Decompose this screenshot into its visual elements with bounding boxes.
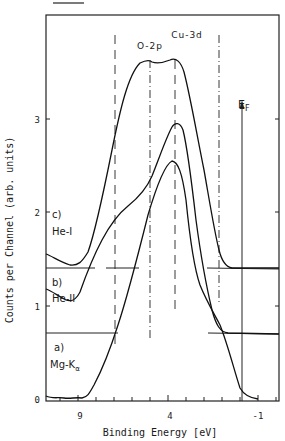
x-tick-9: 9 (77, 411, 82, 421)
o2p-label: O-2p (137, 41, 163, 51)
curve-a-mg-ka (46, 161, 258, 399)
y-tick-3: 3 (35, 115, 40, 125)
y-tick-0: 0 (35, 395, 40, 405)
x-tick-4: 4 (167, 411, 172, 421)
series-b-tag: b) (52, 277, 62, 288)
curve-c-he-i (46, 59, 279, 268)
ef-label: EF (238, 98, 250, 113)
series-a-name: Mg-Kα (50, 359, 80, 373)
cu3d-label: Cu-3d (171, 30, 203, 40)
plot-frame (46, 15, 279, 401)
series-a-tag: a) (54, 342, 64, 353)
y-ticks (46, 119, 279, 306)
series-b-name: He-II (52, 293, 75, 304)
series-c-name: He-I (52, 226, 72, 237)
x-axis-title: Binding Energy [eV] (103, 427, 217, 438)
y-tick-2: 2 (35, 208, 40, 218)
series-c-tag: c) (52, 209, 61, 220)
spectra-chart: 9 4 -1 0 1 2 3 Binding Energy [eV] Count… (0, 0, 285, 441)
curve-b-he-ii (46, 124, 279, 334)
y-tick-1: 1 (35, 302, 40, 312)
y-axis-title: Counts per Channel (arb. units) (4, 137, 15, 324)
x-ticks (60, 395, 276, 401)
x-tick-minus1: -1 (253, 411, 264, 421)
